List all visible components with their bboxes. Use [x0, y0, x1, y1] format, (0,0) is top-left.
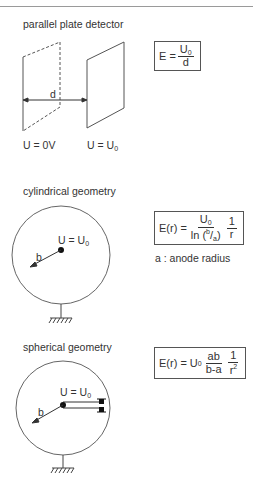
parallel-field-formula: E = U0 d — [154, 41, 201, 71]
spherical-title: spherical geometry — [23, 341, 112, 353]
spherical-field-formula: E(r) = U0 ab b-a 1 r2 — [154, 347, 246, 379]
cylinder-radius-label: b — [36, 251, 42, 263]
sphere-radius-label: b — [38, 406, 44, 418]
fraction: ab b-a — [204, 351, 224, 375]
sphere-ground-symbol — [51, 455, 74, 473]
cylindrical-field-formula: E(r) = U0 ln (b/a) 1 r — [154, 211, 244, 245]
fraction: U0 ln (b/a) — [189, 214, 223, 241]
fraction: 1 r2 — [228, 350, 240, 376]
sphere-feedthrough-lines — [63, 402, 103, 408]
cylinder-radius-arrow — [30, 250, 61, 267]
sphere-insulator-blocks — [97, 399, 106, 412]
cylindrical-title: cylindrical geometry — [23, 185, 116, 197]
sphere-potential: U = U0 — [60, 386, 91, 399]
right-plate-potential: U = U0 — [87, 139, 118, 152]
fraction: U0 d — [178, 44, 194, 69]
fraction: 1 r — [227, 216, 237, 240]
left-plate-dashed — [23, 42, 60, 131]
cylinder-ground-symbol — [49, 304, 72, 323]
right-plate — [87, 42, 124, 128]
anode-radius-note: a : anode radius — [155, 252, 230, 264]
left-plate-potential: U = 0V — [23, 139, 55, 151]
cylinder-circle — [12, 206, 110, 304]
sphere-radius-arrow — [32, 405, 63, 423]
cylinder-potential: U = U0 — [58, 234, 89, 247]
distance-label: d — [50, 88, 56, 100]
